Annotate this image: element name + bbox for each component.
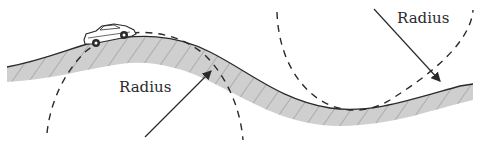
crest-radius-label: Radius xyxy=(119,78,171,96)
dip-radius-label: Radius xyxy=(397,9,449,27)
road xyxy=(7,36,473,126)
